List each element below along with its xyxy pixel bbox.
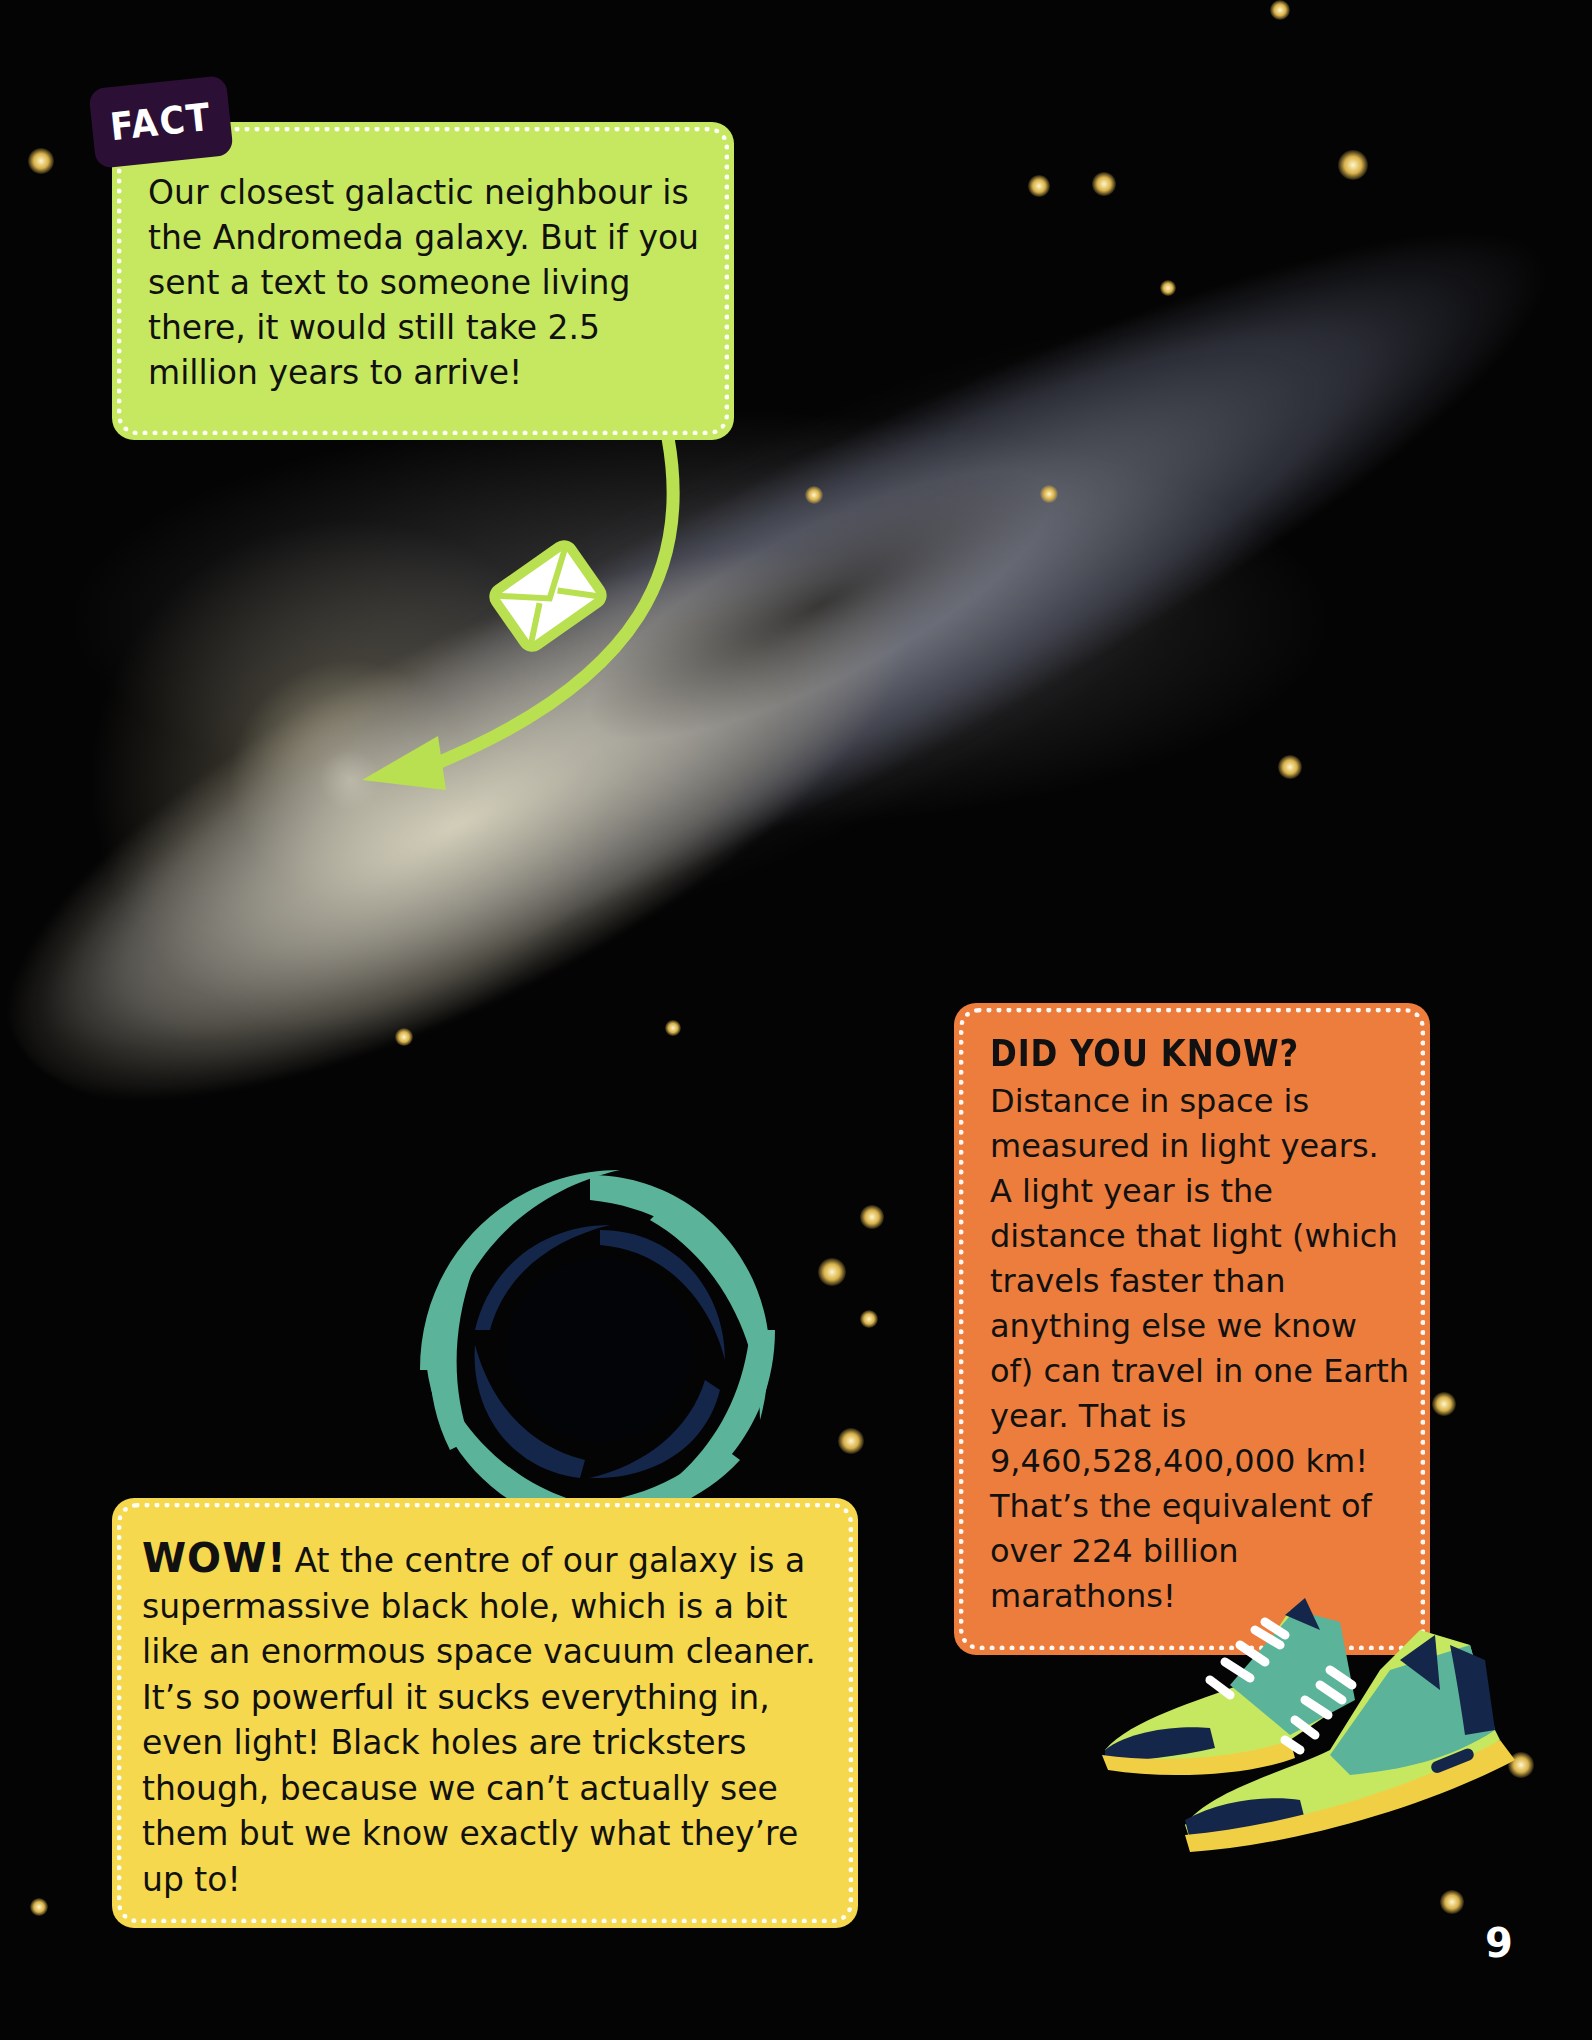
wow-paragraph: WOW!At the centre of our galaxy is a sup… <box>142 1536 828 1902</box>
did-you-know-box: DID YOU KNOW? Distance in space is measu… <box>954 1003 1430 1655</box>
did-you-know-heading: DID YOU KNOW? <box>990 1031 1347 1075</box>
fact-text: Our closest galactic neighbour is the An… <box>148 170 704 395</box>
fact-tag: FACT <box>88 75 234 169</box>
wow-box: WOW!At the centre of our galaxy is a sup… <box>112 1498 858 1928</box>
did-you-know-text: Distance in space is measured in light y… <box>990 1079 1410 1619</box>
black-hole-swirl-icon <box>400 1150 800 1550</box>
wow-lead: WOW! <box>142 1535 287 1581</box>
wow-text: At the centre of our galaxy is a superma… <box>142 1541 816 1899</box>
page-number: 9 <box>1485 1920 1513 1966</box>
fact-box: Our closest galactic neighbour is the An… <box>112 122 734 440</box>
running-shoes-icon <box>1090 1590 1520 1860</box>
